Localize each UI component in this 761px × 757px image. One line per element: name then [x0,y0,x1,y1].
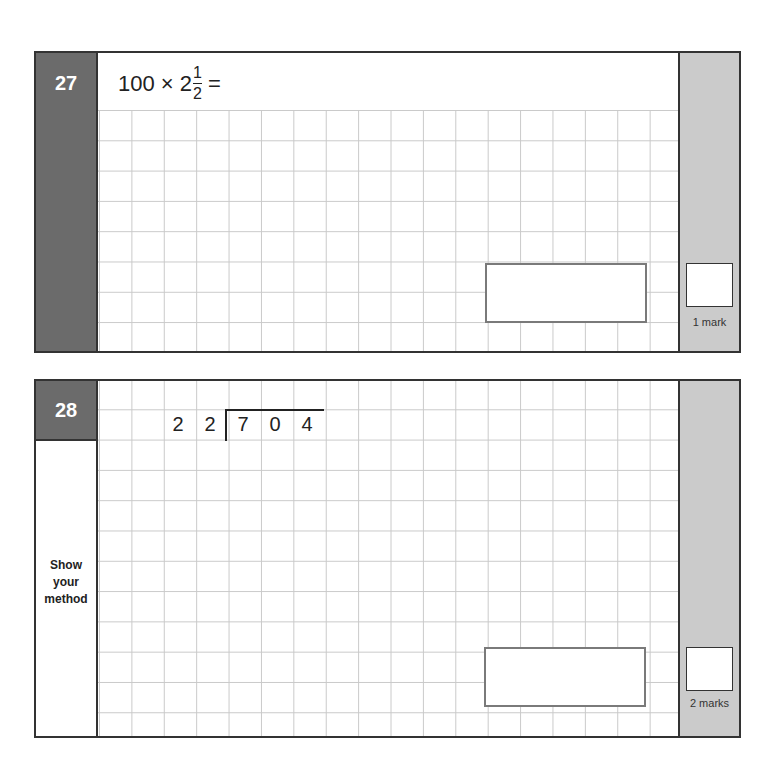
expression: 100 × 2 1 2 = [118,65,221,102]
prompt-line: method [36,591,96,608]
question-number-column: 28 Show your method [36,381,98,736]
expression-lhs: 100 × 2 [118,71,192,97]
show-your-method-label: Show your method [36,557,96,608]
answer-box[interactable] [484,647,646,707]
prompt-line: Show [36,557,96,574]
divisor-digit: 2 [194,413,226,436]
divisor-digit: 2 [162,413,194,436]
answer-box[interactable] [485,263,647,323]
question-number: 28 [36,381,96,441]
question-number: 27 [36,53,96,113]
mark-box [686,647,733,691]
dividend-digit: 0 [259,413,291,436]
mark-box [686,263,733,307]
question-27-box: 27 100 × 2 1 2 = 1 mark [34,51,741,353]
question-28-box: 28 Show your method 2 2 7 0 4 2 marks [34,379,741,738]
marks-label: 1 mark [680,316,739,328]
fraction: 1 2 [193,65,202,102]
dividend-digit: 4 [291,413,323,436]
prompt-line: your [36,574,96,591]
question-number-column: 27 [36,53,98,351]
marks-column: 2 marks [678,381,739,736]
fraction-numerator: 1 [193,65,202,84]
dividend-digit: 7 [227,413,259,436]
equals-sign: = [208,71,221,97]
marks-column: 1 mark [678,53,739,351]
marks-label: 2 marks [680,697,739,709]
question-header: 100 × 2 1 2 = [98,53,678,110]
fraction-denominator: 2 [193,84,202,102]
